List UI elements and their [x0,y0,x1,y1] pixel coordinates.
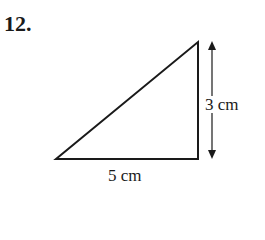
height-label: 3 cm [204,96,240,113]
arrow-down-icon [208,150,216,159]
triangle-shape [56,42,198,159]
base-label: 5 cm [108,167,142,184]
arrow-up-icon [208,41,216,50]
